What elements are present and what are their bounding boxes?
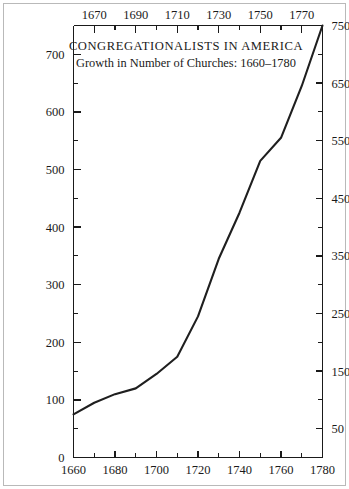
top-tick-label: 1690 bbox=[123, 8, 148, 22]
chart-figure: 1660168017001720174017601780 16701690171… bbox=[0, 0, 349, 489]
left-tick-label: 600 bbox=[46, 105, 65, 119]
chart-title: CONGREGATIONALISTS IN AMERICA bbox=[69, 39, 303, 53]
left-tick-label: 100 bbox=[46, 393, 65, 407]
right-tick-label: 150 bbox=[332, 365, 349, 379]
top-axis-labels: 167016901710173017501770 bbox=[82, 8, 315, 22]
bottom-tick-label: 1660 bbox=[61, 463, 86, 477]
right-tick-label: 550 bbox=[332, 134, 349, 148]
chart-subtitle: Growth in Number of Churches: 1660–1780 bbox=[76, 56, 296, 70]
left-tick-label: 200 bbox=[46, 336, 65, 350]
right-tick-label: 650 bbox=[332, 77, 349, 91]
data-series bbox=[74, 26, 323, 415]
right-tick-label: 750 bbox=[332, 19, 349, 33]
bottom-axis-labels: 1660168017001720174017601780 bbox=[61, 463, 335, 477]
bottom-tick-label: 1680 bbox=[103, 463, 128, 477]
right-tick-label: 250 bbox=[332, 307, 349, 321]
left-axis-ticks bbox=[74, 26, 81, 458]
bottom-tick-label: 1780 bbox=[310, 463, 335, 477]
right-tick-label: 50 bbox=[332, 422, 345, 436]
bottom-tick-label: 1760 bbox=[269, 463, 294, 477]
top-tick-label: 1710 bbox=[165, 8, 190, 22]
plot-frame bbox=[74, 26, 323, 458]
right-tick-label: 450 bbox=[332, 192, 349, 206]
left-tick-label: 500 bbox=[46, 163, 65, 177]
bottom-axis-ticks bbox=[74, 451, 323, 458]
left-tick-label: 0 bbox=[58, 451, 64, 465]
left-tick-label: 700 bbox=[46, 48, 65, 62]
left-tick-label: 400 bbox=[46, 221, 65, 235]
series-line-number-of-churches bbox=[74, 26, 323, 415]
top-tick-label: 1670 bbox=[82, 8, 107, 22]
right-tick-label: 350 bbox=[332, 249, 349, 263]
left-tick-label: 300 bbox=[46, 278, 65, 292]
bottom-tick-label: 1700 bbox=[144, 463, 169, 477]
left-axis-labels: 0100200300400500600700 bbox=[46, 48, 65, 465]
bottom-tick-label: 1740 bbox=[227, 463, 252, 477]
bottom-tick-label: 1720 bbox=[186, 463, 211, 477]
right-axis-ticks bbox=[316, 26, 323, 458]
congregationalists-line-chart: 1660168017001720174017601780 16701690171… bbox=[0, 0, 349, 489]
top-tick-label: 1770 bbox=[289, 8, 314, 22]
right-axis-labels: 50150250350450550650750 bbox=[332, 19, 349, 436]
top-tick-label: 1730 bbox=[206, 8, 231, 22]
top-axis-ticks bbox=[74, 26, 323, 33]
top-tick-label: 1750 bbox=[248, 8, 273, 22]
